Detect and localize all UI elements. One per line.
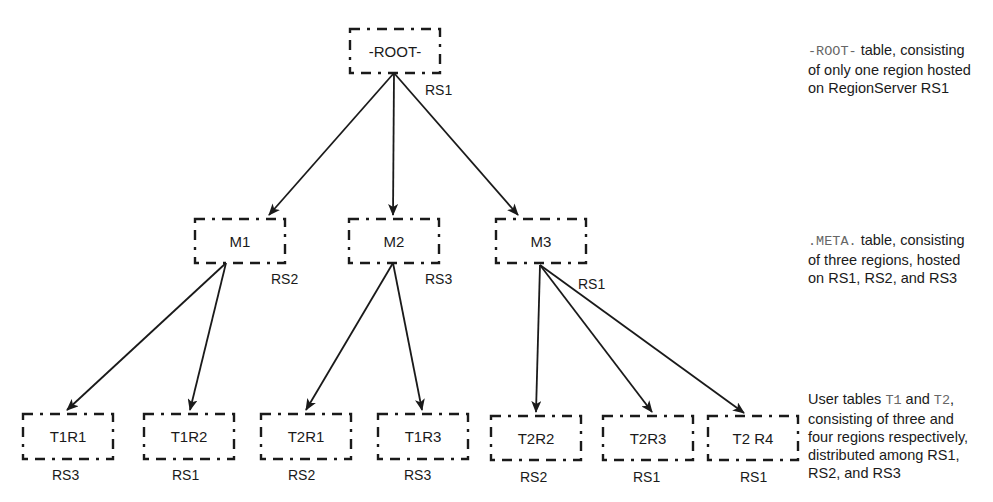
server-label-t1r3: RS3 bbox=[404, 467, 431, 483]
node-label: -ROOT- bbox=[369, 43, 422, 60]
note-text: on RegionServer RS1 bbox=[808, 79, 993, 97]
node-t2r4: T2 R4 bbox=[708, 416, 798, 460]
note-text: table, consisting bbox=[857, 42, 965, 58]
node-root: -ROOT- bbox=[350, 29, 440, 73]
code-t2: T2 bbox=[934, 393, 950, 408]
node-t2r2: T2R2 bbox=[491, 416, 581, 460]
server-label-t1r1: RS3 bbox=[52, 467, 79, 483]
node-t1r3: T1R3 bbox=[378, 414, 468, 459]
edge-root-m2 bbox=[393, 73, 394, 215]
node-label: T1R1 bbox=[50, 428, 87, 445]
code-t1: T1 bbox=[885, 393, 901, 408]
node-m1: M1 bbox=[195, 219, 285, 263]
node-label: M2 bbox=[384, 233, 405, 250]
note-text: of only one region hosted bbox=[808, 61, 993, 79]
node-t2r1: T2R1 bbox=[261, 414, 351, 459]
server-label-t2r2: RS2 bbox=[520, 469, 547, 485]
note-user-tables: User tables T1 and T2, consisting of thr… bbox=[808, 390, 993, 482]
edge-root-m3 bbox=[394, 73, 518, 215]
node-label: T1R2 bbox=[171, 428, 208, 445]
note-root: -ROOT- table, consisting of only one reg… bbox=[808, 41, 993, 97]
server-label-t2r1: RS2 bbox=[288, 467, 315, 483]
node-label: T2R3 bbox=[630, 430, 667, 447]
edge-m3-t2r2 bbox=[536, 265, 540, 412]
node-t2r3: T2R3 bbox=[603, 416, 693, 460]
edge-m3-t2r4 bbox=[540, 265, 744, 413]
edge-m1-t1r2 bbox=[190, 263, 226, 410]
code-meta: .META. bbox=[808, 234, 857, 249]
edge-m2-t1r3 bbox=[393, 263, 422, 410]
node-t1r2: T1R2 bbox=[144, 414, 234, 459]
node-t1r1: T1R1 bbox=[23, 414, 113, 459]
node-label: T2 R4 bbox=[733, 430, 774, 447]
note-text: distributed among RS1, bbox=[808, 446, 993, 464]
node-label: T2R2 bbox=[518, 430, 555, 447]
node-label: T2R1 bbox=[288, 428, 325, 445]
note-text: four regions respectively, bbox=[808, 428, 993, 446]
server-label-t1r2: RS1 bbox=[172, 467, 199, 483]
note-text: table, consisting bbox=[857, 232, 965, 248]
node-label: M1 bbox=[230, 233, 251, 250]
server-label-m1: RS2 bbox=[271, 271, 298, 287]
server-label-m2: RS3 bbox=[425, 271, 452, 287]
edge-m2-t2r1 bbox=[306, 263, 393, 410]
server-label-root: RS1 bbox=[425, 82, 452, 98]
node-m3: M3 bbox=[496, 219, 586, 263]
node-label: M3 bbox=[531, 233, 552, 250]
edge-m1-t1r1 bbox=[67, 263, 226, 410]
node-label: T1R3 bbox=[405, 428, 442, 445]
node-m2: M2 bbox=[349, 219, 439, 263]
note-text: on RS1, RS2, and RS3 bbox=[808, 269, 993, 287]
note-text: RS2, and RS3 bbox=[808, 464, 993, 482]
note-text: consisting of three and bbox=[808, 410, 993, 428]
server-label-t2r4: RS1 bbox=[740, 469, 767, 485]
edge-root-m1 bbox=[269, 73, 394, 215]
note-text: , bbox=[950, 391, 954, 407]
code-root: -ROOT- bbox=[808, 44, 857, 59]
note-text: User tables bbox=[808, 391, 885, 407]
server-label-m3: RS1 bbox=[578, 276, 605, 292]
note-text: and bbox=[902, 391, 934, 407]
server-label-t2r3: RS1 bbox=[633, 469, 660, 485]
note-meta: .META. table, consisting of three region… bbox=[808, 231, 993, 287]
note-text: of three regions, hosted bbox=[808, 251, 993, 269]
